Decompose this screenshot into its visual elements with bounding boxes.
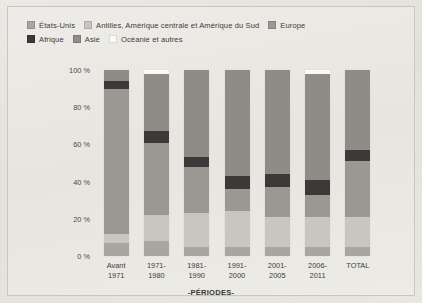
legend-swatch-icon	[27, 35, 35, 43]
bar-segment	[184, 247, 209, 256]
bar-segment	[144, 74, 169, 132]
x-axis-label: 1981-1990	[177, 261, 217, 280]
bar-segment	[305, 195, 330, 217]
x-axis-label-line: 1990	[177, 271, 217, 281]
bar-segment	[225, 176, 250, 189]
x-axis-label: 1991-2000	[217, 261, 257, 280]
bar-segment	[225, 211, 250, 246]
bar-segment	[265, 187, 290, 217]
y-axis-tick-label: 0 %	[77, 252, 90, 261]
bar-segment	[225, 70, 250, 176]
chart-frame: États-UnisAntilles, Amérique centrale et…	[7, 6, 415, 296]
bar-segment	[104, 89, 129, 234]
legend-row: États-UnisAntilles, Amérique centrale et…	[27, 18, 402, 32]
plot-area: 0 %20 %40 %60 %80 %100 %	[96, 70, 378, 256]
x-axis-label-line: 1991-	[217, 261, 257, 271]
stacked-bar	[144, 70, 169, 256]
bar-segment	[144, 241, 169, 256]
bar-segment	[144, 131, 169, 142]
stacked-bar	[104, 70, 129, 256]
bar-segment	[265, 247, 290, 256]
x-axis-label-line: 1980	[136, 271, 176, 281]
scanned-page-background: États-UnisAntilles, Amérique centrale et…	[0, 0, 422, 303]
legend-label: Afrique	[39, 35, 64, 44]
bar-segment	[305, 74, 330, 180]
x-axis-label: 2006-2011	[297, 261, 337, 280]
bar-segment	[265, 70, 290, 174]
legend-item: États-Unis	[27, 21, 75, 30]
legend-swatch-icon	[27, 21, 35, 29]
stacked-bar	[345, 70, 370, 256]
legend-item: Afrique	[27, 35, 64, 44]
bar-segment	[345, 70, 370, 150]
x-axis-label: TOTAL	[338, 261, 378, 271]
bar-segment	[184, 213, 209, 246]
y-axis-tick-label: 100 %	[69, 66, 90, 75]
legend-swatch-icon	[84, 21, 92, 29]
legend-item: Océanie et autres	[109, 35, 183, 44]
bar-segment	[104, 70, 129, 81]
x-axis-label-line: Avant	[96, 261, 136, 271]
bar-segment	[104, 243, 129, 256]
bar-segment	[144, 143, 169, 216]
legend-label: Océanie et autres	[121, 35, 183, 44]
stacked-bar	[184, 70, 209, 256]
stacked-bar	[265, 70, 290, 256]
legend-swatch-icon	[268, 21, 276, 29]
bar-segment	[345, 247, 370, 256]
x-axis-label-line: 2000	[217, 271, 257, 281]
x-axis-label-line: 1971	[96, 271, 136, 281]
x-axis-label-line: 1971-	[136, 261, 176, 271]
legend-swatch-icon	[109, 35, 117, 43]
y-axis-tick-label: 60 %	[73, 140, 90, 149]
stacked-bar	[305, 70, 330, 256]
bar-segment	[104, 81, 129, 88]
bar-segment	[225, 247, 250, 256]
bar-segment	[184, 157, 209, 166]
bar-segment	[265, 217, 290, 247]
bar-segment	[104, 234, 129, 243]
stacked-bar	[225, 70, 250, 256]
legend-item: Europe	[268, 21, 305, 30]
bar-segment	[184, 70, 209, 157]
x-axis-label-line: 2005	[257, 271, 297, 281]
bar-segment	[345, 217, 370, 247]
x-axis-label-line: 2001-	[257, 261, 297, 271]
bar-segment	[184, 167, 209, 214]
legend-row: AfriqueAsieOcéanie et autres	[27, 32, 402, 46]
legend-swatch-icon	[73, 35, 81, 43]
y-axis-tick-label: 80 %	[73, 103, 90, 112]
chart-legend: États-UnisAntilles, Amérique centrale et…	[27, 18, 402, 46]
bar-segment	[144, 215, 169, 241]
bar-segment	[305, 247, 330, 256]
bar-segment	[345, 161, 370, 217]
bar-segment	[345, 150, 370, 161]
x-axis-label-line: 1981-	[177, 261, 217, 271]
x-axis-title: -PÉRIODES-	[8, 288, 414, 297]
x-axis-label-line: TOTAL	[338, 261, 378, 271]
bar-segment	[265, 174, 290, 187]
y-axis-tick-label: 40 %	[73, 177, 90, 186]
bar-segment	[225, 189, 250, 211]
bar-segment	[305, 217, 330, 247]
legend-item: Asie	[73, 35, 100, 44]
x-axis-labels: Avant19711971-19801981-19901991-20002001…	[96, 261, 378, 287]
legend-label: Europe	[280, 21, 305, 30]
x-axis-label-line: 2011	[297, 271, 337, 281]
legend-label: États-Unis	[39, 21, 75, 30]
x-axis-label: Avant1971	[96, 261, 136, 280]
x-axis-label-line: 2006-	[297, 261, 337, 271]
legend-label: Antilles, Amérique centrale et Amérique …	[96, 21, 259, 30]
legend-item: Antilles, Amérique centrale et Amérique …	[84, 21, 259, 30]
bar-segment	[305, 180, 330, 195]
x-axis-label: 2001-2005	[257, 261, 297, 280]
x-axis-label: 1971-1980	[136, 261, 176, 280]
y-axis-tick-label: 20 %	[73, 214, 90, 223]
legend-label: Asie	[85, 35, 100, 44]
